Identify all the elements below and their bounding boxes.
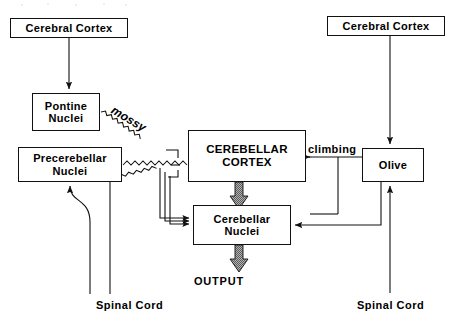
- box-cerebellar-cortex[interactable]: CEREBELLAR CORTEX: [188, 130, 306, 182]
- box-label-line1: Cerebellar: [214, 213, 271, 225]
- box-label-line1: Precerebellar: [33, 152, 107, 164]
- label-spinal-cord-left: Spinal Cord: [96, 299, 163, 311]
- box-label: Cerebral Cortex: [342, 20, 429, 32]
- label-spinal-cord-right: Spinal Cord: [357, 299, 424, 311]
- box-label-line2: Nuclei: [49, 112, 84, 124]
- box-cerebral-cortex-right[interactable]: Cerebral Cortex: [327, 16, 445, 36]
- box-label-line2: CORTEX: [222, 156, 272, 169]
- box-olive[interactable]: Olive: [362, 148, 424, 182]
- box-label-line1: CEREBELLAR: [206, 143, 288, 156]
- box-cerebellar-nuclei[interactable]: Cerebellar Nuclei: [193, 205, 291, 245]
- scan-artifact: [18, 2, 138, 8]
- box-pontine-nuclei[interactable]: Pontine Nuclei: [32, 93, 100, 131]
- box-cerebral-cortex-left[interactable]: Cerebral Cortex: [10, 18, 128, 38]
- diagram-canvas: Cerebral Cortex Cerebral Cortex Pontine …: [0, 0, 455, 331]
- box-label-line1: Pontine: [45, 100, 87, 112]
- box-label: Olive: [379, 159, 407, 171]
- box-label-line2: Nuclei: [225, 225, 260, 237]
- label-output: OUTPUT: [194, 275, 244, 287]
- box-label-line2: Nuclei: [53, 165, 88, 177]
- box-label: Cerebral Cortex: [25, 22, 112, 34]
- label-climbing-fiber: climbing: [307, 143, 357, 155]
- box-precerebellar-nuclei[interactable]: Precerebellar Nuclei: [18, 147, 122, 182]
